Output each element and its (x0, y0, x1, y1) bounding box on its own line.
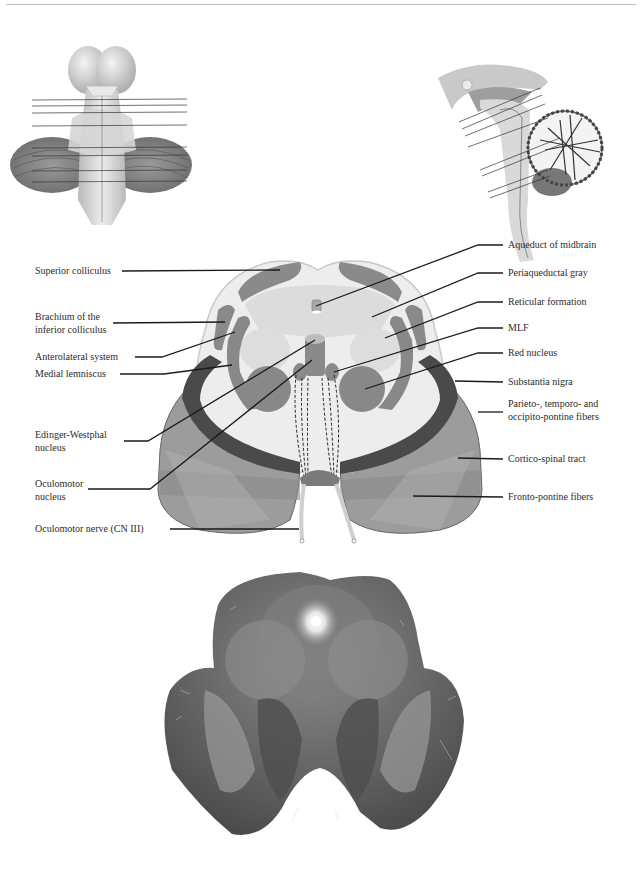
label-edinger-westphal-nucleus: Edinger-Westphal nucleus (35, 428, 107, 454)
label-oculomotor-nerve: Oculomotor nerve (CN III) (35, 522, 144, 535)
reticular-formation-left (240, 328, 290, 372)
label-periaqueductal-gray: Periaqueductal gray (508, 266, 588, 279)
label-aqueduct-of-midbrain: Aqueduct of midbrain (508, 238, 596, 251)
label-parieto-temporo-occipito-pontine-fibers: Parieto-, temporo- and occipito-pontine … (508, 397, 599, 423)
label-fronto-pontine-fibers: Fronto-pontine fibers (508, 490, 593, 503)
label-red-nucleus: Red nucleus (508, 346, 557, 359)
label-reticular-formation: Reticular formation (508, 295, 587, 308)
label-mlf: MLF (508, 321, 529, 334)
label-substantia-nigra: Substantia nigra (508, 375, 573, 388)
label-brachium-inferior-colliculus: Brachium of the inferior colliculus (35, 310, 106, 336)
oculomotor-nerve-left (301, 484, 304, 540)
label-anterolateral-system: Anterolateral system (35, 350, 118, 363)
red-nucleus-right (339, 366, 385, 412)
midbrain-cross-section-diagram (158, 261, 482, 543)
brainstem-dorsal-thumbnail (10, 46, 192, 225)
edinger-westphal-nucleus (305, 334, 325, 344)
red-nucleus-left (245, 366, 291, 412)
label-medial-lemniscus: Medial lemniscus (35, 367, 106, 380)
label-cortico-spinal-tract: Cortico-spinal tract (508, 452, 585, 465)
label-superior-colliculus: Superior colliculus (35, 264, 111, 277)
histology-section (164, 572, 464, 835)
label-oculomotor-nucleus: Oculomotor nucleus (35, 477, 83, 503)
mlf-right (325, 363, 339, 381)
brainstem-sagittal-thumbnail (438, 65, 602, 263)
